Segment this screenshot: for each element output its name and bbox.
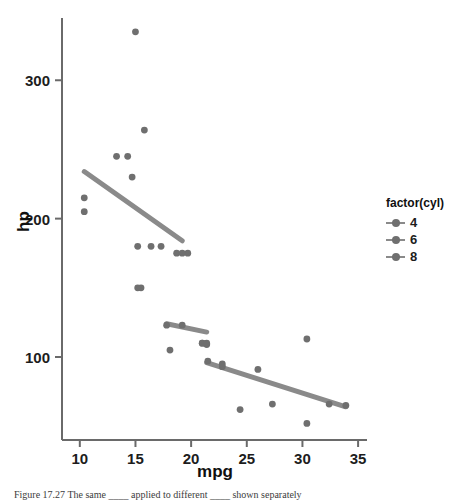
regression-lines: [84, 172, 346, 407]
legend-item-4[interactable]: 4: [386, 214, 466, 231]
x-tick-label: 10: [71, 450, 88, 467]
y-tick-label: 100: [0, 348, 50, 365]
legend: factor(cyl) 468: [386, 196, 466, 265]
data-point-8: [132, 28, 139, 35]
y-axis-title: hp: [14, 211, 34, 232]
legend-key-icon: [386, 233, 405, 247]
data-point-4: [303, 336, 310, 343]
data-point-4: [303, 420, 310, 427]
data-point-8: [179, 250, 186, 257]
legend-key-icon: [386, 216, 405, 230]
data-point-4: [269, 401, 276, 408]
data-point-8: [134, 243, 141, 250]
data-point-4: [255, 366, 262, 373]
data-point-8: [113, 153, 120, 160]
data-point-8: [148, 243, 155, 250]
data-point-6: [179, 322, 186, 329]
regression-line-4: [207, 363, 346, 407]
figure-container: 101520253035 100200300 mpg hp factor(cyl…: [0, 0, 468, 502]
data-point-4: [342, 402, 349, 409]
x-axis-ticks: [80, 440, 358, 447]
data-point-8: [141, 127, 148, 134]
legend-item-label: 8: [410, 249, 417, 264]
data-point-8: [81, 208, 88, 215]
data-point-8: [81, 194, 88, 201]
figure-caption: Figure 17.27 The same ____ applied to di…: [14, 489, 454, 500]
data-point-8: [158, 243, 165, 250]
x-tick-label: 25: [238, 450, 255, 467]
data-point-4: [204, 358, 211, 365]
legend-item-label: 4: [410, 215, 417, 230]
regression-line-8: [84, 172, 182, 241]
legend-item-6[interactable]: 6: [386, 231, 466, 248]
legend-key-icon: [386, 250, 405, 264]
data-point-4: [237, 406, 244, 413]
x-tick-label: 15: [127, 450, 144, 467]
data-point-8: [129, 174, 136, 181]
data-point-6: [163, 322, 170, 329]
x-axis-title: mpg: [197, 462, 233, 482]
x-tick-label: 35: [350, 450, 367, 467]
data-point-6: [167, 347, 174, 354]
axis-lines: [62, 18, 367, 440]
data-point-4: [219, 361, 226, 368]
y-axis-ticks: [55, 80, 62, 357]
legend-item-8[interactable]: 8: [386, 248, 466, 265]
y-tick-label: 300: [0, 72, 50, 89]
data-point-6: [203, 340, 210, 347]
regression-line-6: [167, 324, 207, 332]
x-tick-label: 30: [294, 450, 311, 467]
legend-title: factor(cyl): [386, 196, 466, 210]
legend-item-list: 468: [386, 214, 466, 265]
data-point-4: [326, 401, 333, 408]
data-point-8: [124, 153, 131, 160]
data-point-8: [134, 284, 141, 291]
legend-item-label: 6: [410, 232, 417, 247]
